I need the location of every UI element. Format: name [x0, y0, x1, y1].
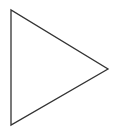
- triangle-shape: [11, 10, 108, 125]
- diagram-canvas: [0, 0, 115, 130]
